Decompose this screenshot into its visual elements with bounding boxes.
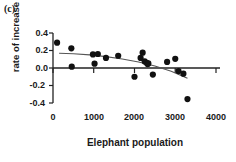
plot-area [0, 0, 236, 162]
data-point [115, 53, 121, 59]
data-point [91, 61, 97, 67]
data-point [54, 40, 60, 46]
data-point [131, 74, 137, 80]
data-point [150, 71, 156, 77]
data-point [164, 59, 170, 65]
x-axis-ticks [53, 68, 216, 73]
data-point [172, 56, 178, 62]
axes [49, 33, 220, 103]
data-point [180, 71, 186, 77]
data-point [140, 50, 146, 56]
data-point [69, 64, 75, 70]
data-point [184, 96, 190, 102]
data-point [95, 51, 101, 57]
data-point [103, 55, 109, 61]
fitted-trend-curve [59, 53, 187, 78]
data-point [68, 45, 74, 51]
data-point [145, 60, 151, 66]
figure-panel-c: (c) rate of increase Elephant population… [0, 0, 236, 162]
